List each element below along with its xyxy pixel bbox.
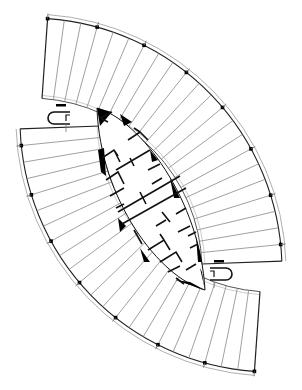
central-core [97, 108, 205, 290]
floor-plan [0, 0, 302, 390]
core-outline [97, 108, 205, 290]
